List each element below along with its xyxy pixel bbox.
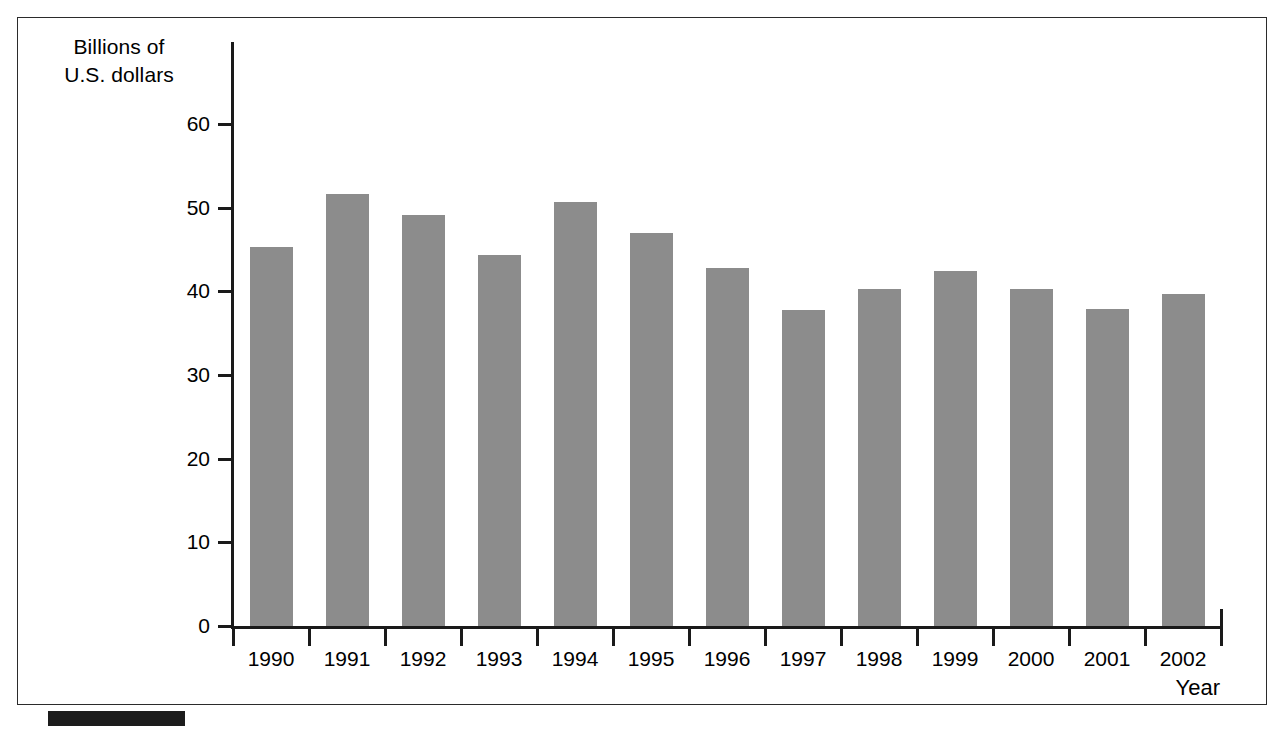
x-axis-tick-label: 2000 — [993, 648, 1069, 670]
bar — [858, 289, 901, 626]
bar — [706, 268, 749, 626]
y-axis-tick-label: 10 — [144, 531, 210, 552]
bar — [782, 310, 825, 626]
y-axis-tick-label: 0 — [144, 615, 210, 636]
x-axis-tick — [840, 629, 843, 646]
figure-page: Billions of U.S. dollars 0102030405060 1… — [0, 0, 1278, 730]
x-axis-line — [231, 626, 1223, 629]
x-axis-tick — [536, 629, 539, 646]
y-axis-tick — [218, 290, 234, 293]
x-axis-tick-label: 1993 — [461, 648, 537, 670]
y-axis-tick-label: 30 — [144, 364, 210, 385]
y-axis-tick — [218, 625, 234, 628]
x-axis-tick — [308, 629, 311, 646]
x-axis-tick-label: 1994 — [537, 648, 613, 670]
x-axis-tick-label: 1992 — [385, 648, 461, 670]
y-axis-tick — [218, 123, 234, 126]
bar — [1010, 289, 1053, 626]
x-axis-title: Year — [1108, 676, 1220, 700]
x-axis-tick — [612, 629, 615, 646]
x-axis-tick-label: 1998 — [841, 648, 917, 670]
x-axis-tick — [384, 629, 387, 646]
x-axis-tick-label: 2002 — [1145, 648, 1221, 670]
x-axis-tick-label: 1996 — [689, 648, 765, 670]
x-axis-tick — [688, 629, 691, 646]
x-axis-tick — [1220, 629, 1223, 646]
bar — [478, 255, 521, 626]
y-axis-tick-label: 20 — [144, 448, 210, 469]
bar — [402, 215, 445, 626]
x-axis-tick — [992, 629, 995, 646]
x-axis-tick-label: 1997 — [765, 648, 841, 670]
x-axis-tick-label: 1990 — [233, 648, 309, 670]
x-axis-tick — [232, 629, 235, 646]
y-axis-tick — [218, 458, 234, 461]
bar — [630, 233, 673, 626]
x-axis-tick — [1068, 629, 1071, 646]
y-axis-tick — [218, 207, 234, 210]
x-axis-tick — [764, 629, 767, 646]
y-axis-title: Billions of U.S. dollars — [28, 33, 210, 89]
caption-rule — [48, 711, 185, 726]
y-axis-tick — [218, 374, 234, 377]
x-axis-tick — [916, 629, 919, 646]
y-axis-tick — [218, 541, 234, 544]
x-axis-tick — [460, 629, 463, 646]
x-axis-tick-label: 2001 — [1069, 648, 1145, 670]
x-axis-tick-label: 1991 — [309, 648, 385, 670]
x-axis-end-tick — [1220, 609, 1223, 629]
bar — [554, 202, 597, 626]
x-axis-tick-label: 1999 — [917, 648, 993, 670]
y-axis-tick-label: 40 — [144, 280, 210, 301]
bar — [934, 271, 977, 626]
x-axis-tick-label: 1995 — [613, 648, 689, 670]
y-axis-tick-label: 50 — [144, 197, 210, 218]
bar — [1162, 294, 1205, 626]
bar — [326, 194, 369, 626]
bar — [1086, 309, 1129, 626]
bar — [250, 247, 293, 626]
bar-chart-plot: Billions of U.S. dollars 0102030405060 1… — [0, 0, 1278, 730]
y-axis-tick-label: 60 — [144, 113, 210, 134]
x-axis-tick — [1144, 629, 1147, 646]
